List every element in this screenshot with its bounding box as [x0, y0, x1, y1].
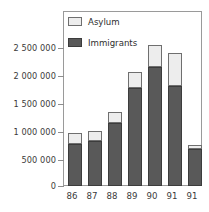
legend-swatch-asylum-icon — [68, 17, 82, 26]
y-tick-label-1500000: 1 500 000 — [0, 99, 56, 109]
bar-segment-immigrants-90 — [148, 67, 162, 186]
legend-item-immigrants[interactable]: Immigrants — [68, 36, 190, 49]
bar-group-87[interactable] — [88, 131, 102, 186]
bar-group-86[interactable] — [68, 133, 82, 186]
bar-segment-immigrants-91-a — [168, 86, 182, 186]
y-tick-label-500000: 500 000 — [0, 155, 56, 165]
y-tick-label-1000000: 1 000 000 — [0, 127, 56, 137]
bar-segment-immigrants-88 — [108, 123, 122, 186]
x-tick-label-87: 87 — [83, 191, 101, 201]
stacked-bar-chart: 2 500 000 2 000 000 1 500 000 1 000 000 … — [0, 0, 209, 212]
legend: Asylum Immigrants — [68, 15, 190, 57]
bar-segment-asylum-91-a — [168, 53, 182, 86]
bar-group-89[interactable] — [128, 72, 142, 186]
y-tick-label-2000000: 2 000 000 — [0, 71, 56, 81]
legend-item-asylum[interactable]: Asylum — [68, 15, 190, 28]
bar-segment-asylum-86 — [68, 133, 82, 144]
y-tick-label-2500000: 2 500 000 — [0, 43, 56, 53]
bar-segment-asylum-89 — [128, 72, 142, 88]
bar-segment-immigrants-89 — [128, 88, 142, 186]
x-tick-label-88: 88 — [103, 191, 121, 201]
x-tick-label-86: 86 — [63, 191, 81, 201]
y-tick-mark-0 — [58, 186, 64, 187]
bar-segment-asylum-88 — [108, 112, 122, 124]
bar-group-91-b[interactable] — [188, 145, 202, 186]
bar-segment-immigrants-87 — [88, 141, 102, 186]
bar-group-91-a[interactable] — [168, 53, 182, 186]
x-tick-label-91-a: 91 — [163, 191, 181, 201]
y-tick-label-0: 0 — [0, 181, 56, 191]
legend-label-asylum: Asylum — [88, 17, 120, 27]
bar-segment-immigrants-91-b — [188, 149, 202, 186]
x-tick-label-89: 89 — [123, 191, 141, 201]
bar-group-90[interactable] — [148, 45, 162, 186]
x-tick-label-91-b: 91 — [183, 191, 201, 201]
bar-segment-asylum-87 — [88, 131, 102, 141]
bar-group-88[interactable] — [108, 112, 122, 186]
y-axis: 2 500 000 2 000 000 1 500 000 1 000 000 … — [0, 0, 56, 212]
legend-swatch-immigrants-icon — [68, 38, 82, 47]
bar-segment-immigrants-86 — [68, 144, 82, 186]
legend-label-immigrants: Immigrants — [88, 38, 137, 48]
x-tick-label-90: 90 — [143, 191, 161, 201]
